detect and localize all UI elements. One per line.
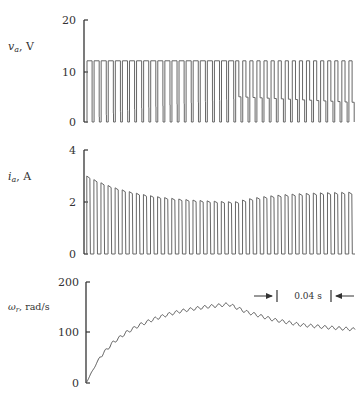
voltage-tick-label-10: 10	[62, 66, 76, 79]
arrow-right-icon	[266, 293, 273, 299]
voltage-tick-label-20: 20	[62, 14, 76, 27]
time-scale-bar: 0.04 s	[254, 290, 354, 302]
current-tick-label-4: 4	[69, 144, 76, 157]
speed-panel: 200 100 0 ωr, rad/s 0.04 s	[8, 276, 355, 390]
voltage-axis-label: va, V	[8, 40, 35, 54]
voltage-tick-label-0: 0	[69, 116, 76, 129]
time-scale-label: 0.04 s	[294, 291, 322, 301]
voltage-trace	[86, 61, 354, 122]
current-axis-label: ia, A	[8, 170, 32, 184]
speed-tick-label-200: 200	[58, 276, 79, 289]
speed-trace	[86, 303, 355, 383]
speed-tick-label-0: 0	[72, 377, 79, 390]
chart-canvas: 20 10 0 va, V 4 2 0 ia, A 200 100 0 ωr, …	[0, 0, 364, 393]
voltage-panel: 20 10 0 va, V	[8, 14, 354, 129]
speed-axis-label: ωr, rad/s	[8, 301, 50, 314]
current-trace	[86, 176, 355, 254]
current-tick-label-2: 2	[69, 196, 76, 209]
speed-tick-label-100: 100	[58, 326, 79, 339]
current-panel: 4 2 0 ia, A	[8, 144, 355, 261]
current-tick-label-0: 0	[69, 248, 76, 261]
